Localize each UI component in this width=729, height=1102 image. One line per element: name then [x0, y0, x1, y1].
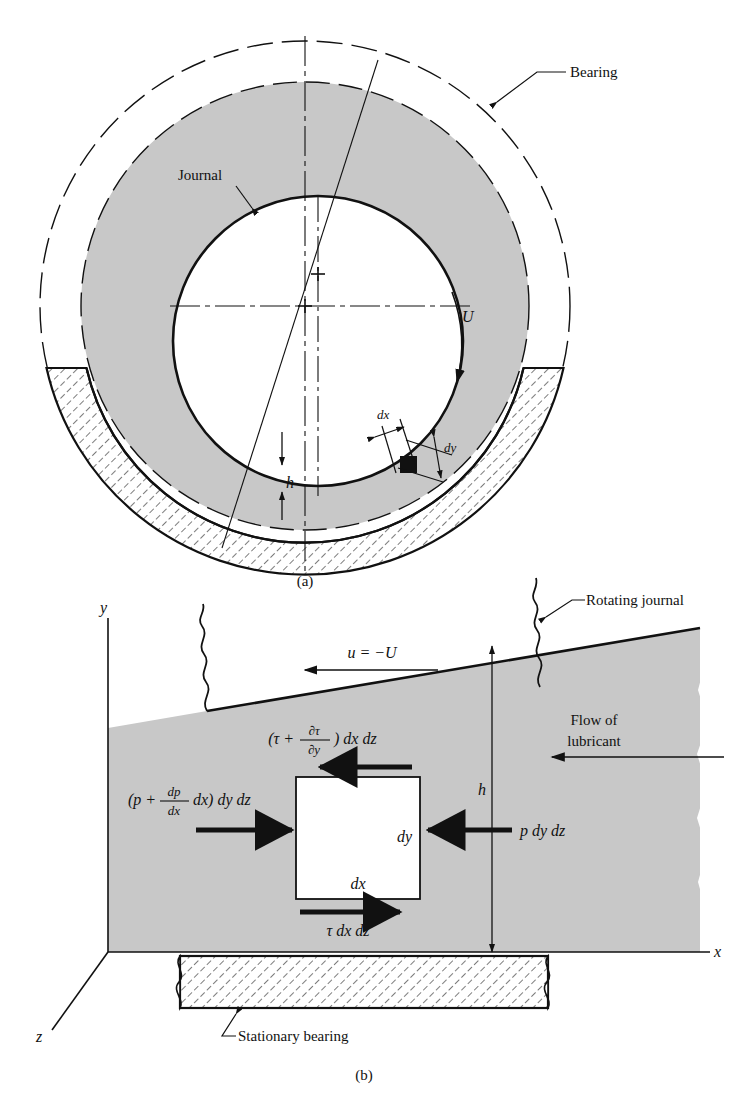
caption-b: (b)	[355, 1067, 373, 1084]
bearing-leader	[497, 72, 566, 102]
figure-root: Bearing Journal U h dx dy	[0, 0, 729, 1102]
axis-z-line	[52, 952, 108, 1030]
label-pressure-right: p dy dz	[519, 822, 566, 840]
label-axis-z: z	[35, 1028, 43, 1045]
label-bearing: Bearing	[570, 64, 618, 80]
label-element-dx: dx	[350, 875, 365, 892]
technical-figure: Bearing Journal U h dx dy	[0, 0, 729, 1102]
caption-a-text: (a)	[297, 573, 314, 590]
label-velocity-U: U	[462, 308, 475, 325]
label-stationary-bearing: Stationary bearing	[238, 1028, 349, 1044]
shear-top-denominator: ∂y	[308, 742, 320, 757]
pressure-left-denominator: dx	[168, 803, 181, 818]
label-axis-y: y	[98, 599, 108, 617]
label-shear-bottom: τ dx dz	[326, 922, 370, 939]
panel-a: Bearing Journal U h dx dy	[40, 36, 618, 590]
journal-center-cross	[311, 267, 325, 281]
shear-top-suffix: ) dx dz	[333, 730, 377, 748]
rotating-journal-leader	[546, 600, 585, 617]
label-h-b: h	[478, 781, 486, 798]
journal-break-line-left	[200, 604, 209, 711]
label-h: h	[286, 474, 294, 491]
bearing-center-cross	[298, 299, 312, 313]
label-dx-a: dx	[377, 407, 390, 422]
pressure-left-prefix: (p +	[128, 791, 156, 809]
pressure-left-numerator: dp	[168, 784, 182, 799]
panel-b: Rotating journal u = −U y x z Stationary…	[35, 578, 724, 1084]
label-dy-a: dy	[444, 440, 457, 455]
stationary-bearing-block	[176, 956, 549, 1008]
stationary-bearing-leader	[222, 1014, 236, 1036]
caption-b-text: (b)	[355, 1067, 373, 1084]
label-flow-of-lubricant-1: Flow of	[570, 712, 617, 728]
shear-top-prefix: (τ +	[268, 730, 294, 748]
label-element-dy: dy	[397, 828, 413, 846]
caption-a: (a)	[297, 573, 314, 590]
label-rotating-journal: Rotating journal	[586, 592, 684, 608]
label-flow-of-lubricant-2: lubricant	[567, 733, 621, 749]
label-journal: Journal	[178, 167, 222, 183]
shear-top-numerator: ∂τ	[308, 723, 320, 738]
pressure-left-mid: dx) dy dz	[193, 791, 252, 809]
label-axis-x: x	[713, 943, 721, 960]
label-surface-velocity: u = −U	[347, 644, 398, 661]
